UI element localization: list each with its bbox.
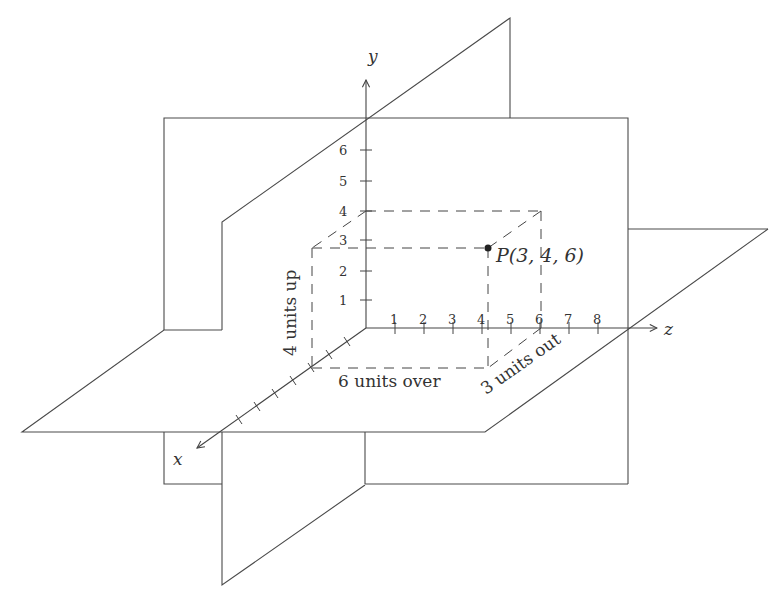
z-tick-label: 3 [448,312,456,327]
yz-plane [164,118,768,484]
z-tick-label: 1 [390,312,398,327]
z-tick-label: 6 [535,312,543,327]
y-tick-label: 6 [339,143,347,158]
annotation-units-up: 4 units up [280,270,300,356]
y-tick-label: 5 [339,174,347,189]
point-p [485,245,492,252]
z-tick-label: 2 [419,312,427,327]
y-tick-label: 1 [339,293,347,308]
z-tick-label: 8 [593,312,601,327]
x-axis-label: x [173,449,183,469]
annotation-units-over: 6 units over [338,371,441,391]
point-p-label: P(3, 4, 6) [495,244,584,266]
z-tick-label: 4 [477,312,485,327]
y-tick-label: 3 [339,233,347,248]
y-axis-ticks: 1 2 3 4 5 6 [339,143,372,308]
z-axis-ticks: 1 2 3 4 5 6 7 8 [390,312,601,334]
z-tick-label: 5 [506,312,514,327]
coordinate-diagram: 1 2 3 4 5 6 1 2 3 4 5 6 7 8 y z x [0,0,783,595]
axes [197,80,657,448]
y-tick-label: 2 [339,264,347,279]
y-axis-label: y [367,46,378,66]
annotation-units-out: 3 units out [477,329,564,399]
z-axis-label: z [663,319,674,339]
z-tick-label: 7 [564,312,572,327]
y-tick-label: 4 [339,204,347,219]
